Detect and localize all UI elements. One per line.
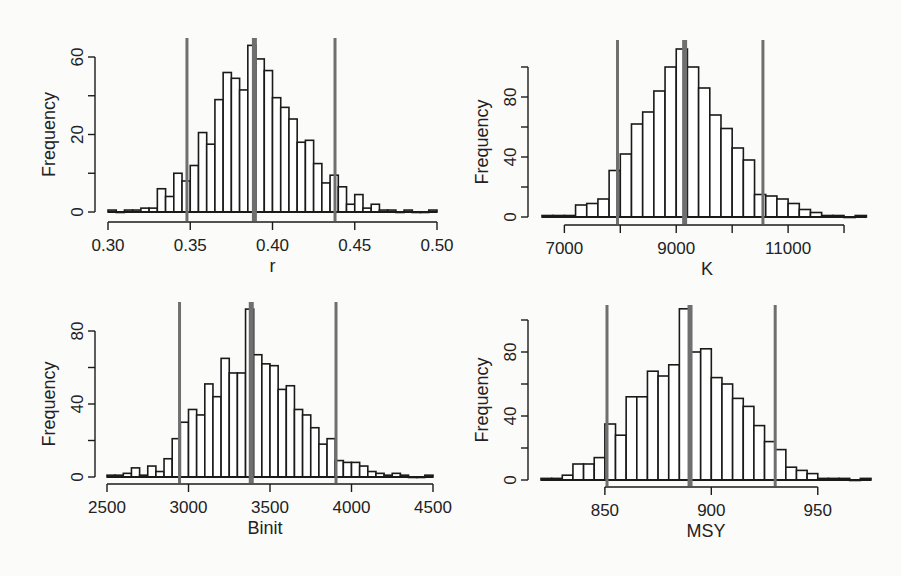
histogram-bar bbox=[587, 204, 598, 218]
histogram-bar bbox=[180, 422, 188, 477]
histogram-bar bbox=[584, 464, 595, 480]
y-tick-label: 60 bbox=[68, 48, 87, 67]
histogram-bar bbox=[157, 189, 165, 212]
x-tick-label: 0.35 bbox=[174, 236, 207, 255]
y-axis-label: Frequency bbox=[472, 99, 492, 184]
histogram-bar bbox=[754, 426, 765, 480]
histogram-bar bbox=[598, 199, 609, 217]
y-axis: 04080Frequency bbox=[39, 322, 95, 482]
x-axis: 0.300.350.400.450.50r bbox=[91, 222, 453, 276]
histogram-bar bbox=[311, 428, 319, 477]
histogram-bar bbox=[647, 371, 658, 480]
y-axis: 04080Frequency bbox=[472, 320, 528, 485]
histogram-bar bbox=[711, 378, 722, 480]
y-axis-label: Frequency bbox=[39, 361, 59, 446]
x-tick-label: 3000 bbox=[170, 498, 208, 517]
histogram-bar bbox=[213, 397, 221, 477]
y-tick-label: 40 bbox=[68, 395, 87, 414]
histogram-bar bbox=[221, 358, 229, 477]
histogram-bar bbox=[229, 373, 237, 477]
x-axis: 25003000350040004500Binit bbox=[88, 484, 452, 538]
x-axis-label: MSY bbox=[686, 521, 725, 541]
histogram-bar bbox=[743, 160, 754, 217]
histogram-bar bbox=[198, 133, 206, 212]
figure-canvas: 02060Frequency0.300.350.400.450.50r 0408… bbox=[0, 0, 901, 576]
histogram-bar bbox=[643, 112, 654, 217]
y-axis: 04080Frequency bbox=[472, 67, 528, 222]
y-axis-label: Frequency bbox=[472, 357, 492, 442]
y-tick-label: 0 bbox=[68, 472, 87, 481]
histogram-bar bbox=[777, 199, 788, 217]
histogram-bar bbox=[297, 142, 305, 212]
histogram-bar bbox=[305, 140, 313, 212]
histogram-bar bbox=[788, 204, 799, 218]
histogram-bar bbox=[799, 210, 810, 218]
histogram-bar bbox=[626, 397, 637, 480]
histogram-bar bbox=[658, 376, 669, 480]
histogram-bars bbox=[542, 49, 866, 218]
histogram-bar bbox=[710, 115, 721, 217]
histogram-bar bbox=[352, 462, 360, 477]
histogram-bar bbox=[654, 91, 665, 217]
histogram-bar bbox=[190, 166, 198, 213]
histogram-bar bbox=[766, 196, 777, 217]
x-tick-label: 0.40 bbox=[256, 236, 289, 255]
x-tick-label: 0.50 bbox=[420, 236, 453, 255]
y-tick-label: 20 bbox=[68, 125, 87, 144]
histogram-bar bbox=[327, 439, 335, 477]
histogram-bar bbox=[360, 466, 368, 477]
histogram-bar bbox=[278, 389, 286, 477]
histogram-bar bbox=[637, 397, 648, 480]
panel-K-histogram: 04080Frequency7000900011000K bbox=[472, 40, 866, 279]
histogram-bar bbox=[174, 173, 182, 212]
x-tick-label: 0.30 bbox=[91, 236, 124, 255]
y-axis: 02060Frequency bbox=[39, 48, 95, 217]
histogram-bar bbox=[576, 205, 587, 217]
y-tick-label: 0 bbox=[501, 212, 520, 221]
x-axis: 850900950MSY bbox=[591, 487, 832, 541]
histogram-bar bbox=[701, 349, 712, 480]
y-tick-label: 40 bbox=[501, 407, 520, 426]
histogram-bar bbox=[197, 415, 205, 477]
histogram-bar bbox=[223, 73, 231, 213]
histogram-bar bbox=[237, 373, 245, 477]
histogram-bar bbox=[775, 450, 786, 480]
histogram-bar bbox=[205, 384, 213, 477]
histogram-bar bbox=[273, 98, 281, 212]
histogram-bar bbox=[131, 468, 139, 477]
x-axis-label: Binit bbox=[247, 518, 282, 538]
x-tick-label: 950 bbox=[804, 501, 832, 520]
histogram-bar bbox=[254, 355, 262, 477]
histogram-bar bbox=[294, 409, 302, 477]
histogram-bar bbox=[721, 129, 732, 218]
histogram-bar bbox=[573, 464, 584, 480]
x-tick-label: 850 bbox=[591, 501, 619, 520]
y-tick-label: 80 bbox=[501, 343, 520, 362]
histogram-bar bbox=[262, 364, 270, 477]
histogram-bar bbox=[594, 458, 605, 480]
y-tick-label: 40 bbox=[501, 148, 520, 167]
histogram-bar bbox=[765, 442, 776, 480]
histogram-bar bbox=[722, 384, 733, 480]
histogram-bar bbox=[270, 366, 278, 477]
histogram-bar bbox=[343, 462, 351, 477]
histogram-bar bbox=[347, 204, 355, 212]
histogram-bar bbox=[338, 187, 346, 212]
y-tick-label: 0 bbox=[501, 475, 520, 484]
panel-r-histogram: 02060Frequency0.300.350.400.450.50r bbox=[39, 38, 454, 276]
histogram-bar bbox=[687, 67, 698, 217]
x-tick-label: 9000 bbox=[657, 239, 695, 258]
histogram-bar bbox=[699, 88, 710, 217]
histogram-bar bbox=[166, 197, 174, 213]
histogram-bar bbox=[322, 183, 330, 212]
y-axis-label: Frequency bbox=[39, 92, 59, 177]
x-tick-label: 4000 bbox=[333, 498, 371, 517]
panel-Binit-histogram: 04080Frequency25003000350040004500Binit bbox=[39, 302, 452, 538]
histogram-bar bbox=[669, 365, 680, 480]
histogram-bar bbox=[207, 144, 215, 212]
x-tick-label: 3500 bbox=[251, 498, 289, 517]
histogram-bar bbox=[289, 119, 297, 212]
histogram-bars bbox=[107, 309, 433, 477]
histogram-bar bbox=[240, 90, 248, 212]
x-tick-label: 2500 bbox=[88, 498, 126, 517]
